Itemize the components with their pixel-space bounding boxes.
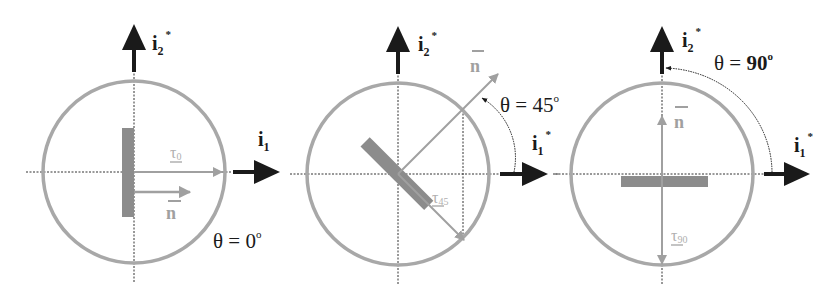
normal-vector-arrow-icon [398,74,498,174]
i2-axis-arrow-icon [386,26,410,74]
normal-label: n [166,203,176,223]
traction-label: τ0 [170,144,181,162]
theta-label: θ = 0o [213,228,262,253]
i2-label: i2* [682,25,702,55]
plate [621,176,708,187]
normal-label: n [470,56,480,76]
stress-rotation-diagram: i2* i1 τ0 n θ = 0o i2* [0,0,833,294]
i1-axis-arrow-icon [764,162,810,186]
i1-label: i1* [794,130,814,160]
i1-label: i1* [532,128,552,158]
i1-axis-arrow-icon [500,162,548,186]
i2-axis-arrow-icon [122,24,146,72]
traction-label: τ90 [671,227,687,245]
theta-label: θ = 45o [500,92,559,117]
i2-axis-arrow-icon [650,26,674,74]
panel-theta-90: i2* i1* n τ90 θ = 90o [555,25,814,284]
i1-label: i1 [258,128,270,154]
i1-axis-arrow-icon [233,160,280,184]
theta-label: θ = 90o [714,50,773,75]
panel-theta-0: i2* i1 τ0 n θ = 0o [26,24,280,283]
normal-label: n [674,112,684,132]
plate [122,128,134,217]
i2-label: i2* [152,28,172,58]
i2-label: i2* [418,29,438,59]
traction-vector-arrow-icon [398,174,464,240]
traction-label: τ45 [432,189,448,207]
panel-theta-45: i2* i1* n τ45 θ = 45o [290,26,560,284]
